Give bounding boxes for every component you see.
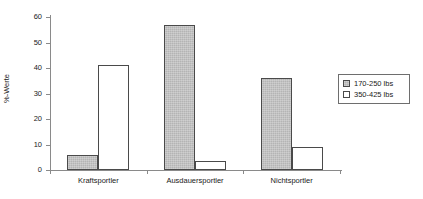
legend: 170-250 lbs 350-425 lbs [338, 74, 410, 104]
y-tick-label-50: 50 [0, 39, 42, 47]
bar-chart: %-Werte 0102030405060 KraftsportlerAusda… [0, 0, 423, 199]
y-tick-label-20: 20 [0, 115, 42, 123]
bar-nichtsportler-series-1 [292, 147, 323, 170]
bar-nichtsportler-series-0 [261, 78, 292, 170]
legend-label-0: 170-250 lbs [354, 79, 393, 88]
legend-label-1: 350-425 lbs [354, 90, 393, 99]
y-tick-label-10: 10 [0, 141, 42, 149]
y-tick-label-60: 60 [0, 13, 42, 21]
x-separator-3 [340, 170, 341, 174]
y-tick-10 [46, 145, 51, 146]
bar-kraftsportler-series-1 [98, 65, 129, 170]
y-axis-title: %-Werte [2, 74, 11, 103]
legend-item-1[interactable]: 350-425 lbs [343, 89, 406, 100]
x-separator-0 [50, 170, 51, 174]
bar-ausdauersportler-series-0 [164, 25, 195, 170]
y-tick-60 [46, 17, 51, 18]
y-tick-40 [46, 68, 51, 69]
y-tick-label-30: 30 [0, 90, 42, 98]
y-tick-label-40: 40 [0, 64, 42, 72]
bar-ausdauersportler-series-1 [195, 161, 226, 170]
legend-swatch-icon-170-250 [343, 80, 350, 87]
x-separator-1 [147, 170, 148, 174]
x-axis-line [50, 170, 342, 171]
y-tick-30 [46, 94, 51, 95]
y-tick-label-0: 0 [0, 166, 42, 174]
x-separator-2 [243, 170, 244, 174]
y-tick-50 [46, 43, 51, 44]
legend-swatch-icon-350-425 [343, 91, 350, 98]
x-axis-label-2: Nichtsportler [232, 176, 352, 185]
legend-item-0[interactable]: 170-250 lbs [343, 78, 406, 89]
bar-kraftsportler-series-0 [67, 155, 98, 170]
y-tick-20 [46, 119, 51, 120]
